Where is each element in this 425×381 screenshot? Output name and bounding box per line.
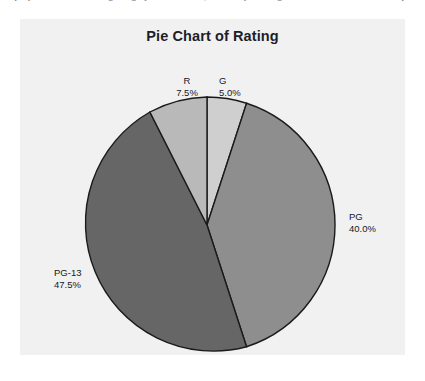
pie-label-r-name: R (184, 75, 191, 86)
pie-label-pg-pct: 40.0% (349, 223, 376, 234)
pie-label-g-pct: 5.0% (219, 87, 241, 98)
pie-chart-svg (20, 19, 405, 355)
chart-figure-panel: Pie Chart of Rating G5.0% R7.5% PG40.0% … (20, 19, 405, 355)
pie-label-pg: PG40.0% (349, 211, 376, 234)
pie-label-r-pct: 7.5% (176, 87, 198, 98)
pie-label-pg13-pct: 47.5% (54, 279, 81, 290)
pie-label-pg-name: PG (349, 211, 363, 222)
pie-label-pg13: PG-1347.5% (54, 267, 81, 290)
clipped-body-text-line: the proportion of each rating category i… (0, 0, 425, 4)
pie-label-r: R7.5% (170, 75, 204, 98)
pie-label-g: G5.0% (219, 75, 241, 98)
pie-label-pg13-name: PG-13 (54, 267, 81, 278)
pie-label-g-name: G (219, 75, 226, 86)
